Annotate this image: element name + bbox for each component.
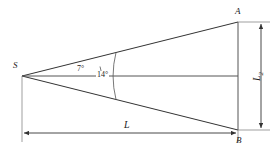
point-label-a: A (235, 7, 241, 16)
dimension-label-l2-subscript: 2 (257, 72, 265, 76)
point-label-s: S (13, 61, 18, 70)
angle-label-7-degrees: 7° (76, 65, 85, 73)
geometry-figure: S A B 7° 14° L L2 (0, 0, 280, 157)
angle-label-14-degrees: 14° (96, 71, 109, 79)
figure-drawing-canvas (0, 0, 280, 157)
ray-s-to-b (22, 76, 238, 130)
dimension-label-l2: L2 (252, 69, 265, 85)
ray-s-to-a (22, 22, 238, 76)
dimension-label-l: L (124, 120, 130, 130)
dimension-label-l2-base: L (251, 75, 262, 81)
point-label-b: B (236, 136, 242, 145)
